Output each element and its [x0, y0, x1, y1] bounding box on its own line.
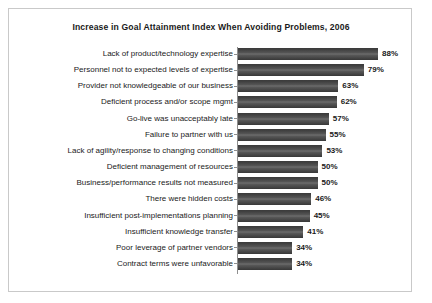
axis-tick-mark: [234, 134, 237, 135]
bar: [238, 48, 378, 60]
bar-category-label: Business/performance results not measure…: [76, 175, 233, 191]
bar-category-label: Insufficient post-implementations planni…: [84, 208, 233, 224]
bar-value-label: 41%: [307, 226, 323, 238]
bar-category-label: Go-live was unacceptably late: [127, 111, 233, 127]
bar: [238, 80, 338, 92]
bar: [238, 113, 329, 125]
axis-tick-mark: [234, 102, 237, 103]
bar-container: 55%: [238, 129, 326, 141]
bar-value-label: 88%: [382, 48, 398, 60]
axis-tick-mark: [234, 54, 237, 55]
axis-tick-mark: [234, 247, 237, 248]
bar-chart-plot-area: Lack of product/technology expertise88%P…: [9, 41, 412, 281]
bar-value-label: 63%: [342, 80, 358, 92]
axis-tick-mark: [234, 167, 237, 168]
bar: [238, 242, 292, 254]
bar-container: 88%: [238, 48, 378, 60]
bar-container: 34%: [238, 258, 292, 270]
axis-tick-mark: [234, 263, 237, 264]
bar-container: 34%: [238, 242, 292, 254]
bar: [238, 96, 337, 108]
bar: [238, 177, 318, 189]
bar-value-label: 34%: [296, 242, 312, 254]
bar-row: Poor leverage of partner vendors34%: [9, 240, 412, 256]
bar-container: 45%: [238, 210, 310, 222]
bar: [238, 145, 322, 157]
bar: [238, 258, 292, 270]
axis-tick-mark: [234, 70, 237, 71]
bar-row: Deficient process and/or scope mgmt62%: [9, 94, 412, 110]
bar-value-label: 79%: [368, 64, 384, 76]
bar-container: 57%: [238, 113, 329, 125]
bar: [238, 210, 310, 222]
bar-row: Insufficient post-implementations planni…: [9, 208, 412, 224]
bar-container: 79%: [238, 64, 364, 76]
bar-row: Contract terms were unfavorable34%: [9, 256, 412, 272]
bar: [238, 193, 311, 205]
bar-category-label: There were hidden costs: [145, 191, 233, 207]
chart-title: Increase in Goal Attainment Index When A…: [9, 22, 412, 32]
bar-category-label: Contract terms were unfavorable: [117, 256, 233, 272]
bar: [238, 64, 364, 76]
bar-row: Go-live was unacceptably late57%: [9, 111, 412, 127]
bar-category-label: Insufficient knowledge transfer: [125, 224, 233, 240]
bar-row: Lack of product/technology expertise88%: [9, 46, 412, 62]
axis-tick-mark: [234, 215, 237, 216]
bar-value-label: 46%: [315, 193, 331, 205]
bar-value-label: 62%: [341, 96, 357, 108]
bar-value-label: 55%: [330, 129, 346, 141]
bar-value-label: 50%: [322, 177, 338, 189]
bar: [238, 226, 303, 238]
bar-value-label: 34%: [296, 258, 312, 270]
bar-container: 50%: [238, 161, 318, 173]
bar-container: 63%: [238, 80, 338, 92]
bar-container: 62%: [238, 96, 337, 108]
bar-container: 46%: [238, 193, 311, 205]
axis-tick-mark: [234, 183, 237, 184]
axis-tick-mark: [234, 118, 237, 119]
bar-row: Lack of agility/response to changing con…: [9, 143, 412, 159]
bar-value-label: 50%: [322, 161, 338, 173]
bar-row: Deficient management of resources50%: [9, 159, 412, 175]
bar-row: Insufficient knowledge transfer41%: [9, 224, 412, 240]
bar-container: 50%: [238, 177, 318, 189]
bar-category-label: Personnel not to expected levels of expe…: [74, 62, 233, 78]
bar-value-label: 57%: [333, 113, 349, 125]
bar-category-label: Provider not knowledgeable of our busine…: [78, 78, 233, 94]
bar-category-label: Lack of product/technology expertise: [103, 46, 233, 62]
bar-category-label: Poor leverage of partner vendors: [116, 240, 233, 256]
bar-row: Business/performance results not measure…: [9, 175, 412, 191]
axis-tick-mark: [234, 231, 237, 232]
bar-container: 41%: [238, 226, 303, 238]
bar-value-label: 53%: [326, 145, 342, 157]
bar-row: Personnel not to expected levels of expe…: [9, 62, 412, 78]
bar-category-label: Deficient process and/or scope mgmt: [101, 94, 233, 110]
axis-tick-mark: [234, 150, 237, 151]
axis-tick-mark: [234, 86, 237, 87]
bar-category-label: Deficient management of resources: [107, 159, 233, 175]
bar: [238, 129, 326, 141]
chart-frame: Increase in Goal Attainment Index When A…: [8, 8, 412, 292]
bar-value-label: 45%: [314, 210, 330, 222]
bar-category-label: Lack of agility/response to changing con…: [68, 143, 233, 159]
bar-row: Failure to partner with us55%: [9, 127, 412, 143]
bar-row: Provider not knowledgeable of our busine…: [9, 78, 412, 94]
bar-row: There were hidden costs46%: [9, 191, 412, 207]
axis-tick-mark: [234, 199, 237, 200]
bar-category-label: Failure to partner with us: [145, 127, 233, 143]
bar: [238, 161, 318, 173]
bar-container: 53%: [238, 145, 322, 157]
